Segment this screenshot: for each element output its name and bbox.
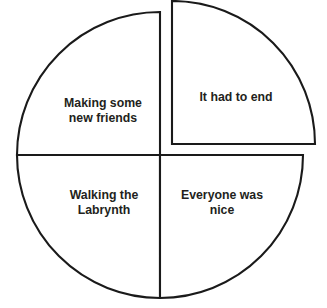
pie-label-walking-the-labrynth-line1: Walking the (70, 188, 139, 202)
pie-slice-everyone-was-nice[interactable] (160, 155, 303, 298)
pie-chart-canvas: Making some new friends It had to end Wa… (0, 0, 327, 308)
pie-label-walking-the-labrynth-line2: Labrynth (78, 203, 131, 217)
pie-label-everyone-was-nice-line2: nice (210, 203, 235, 217)
pie-label-making-some-new-friends-line2: new friends (69, 111, 137, 125)
pie-label-it-had-to-end-line1: It had to end (199, 90, 272, 104)
pie-slice-it-had-to-end[interactable] (172, 1, 315, 144)
pie-chart-figure: Making some new friends It had to end Wa… (0, 0, 327, 308)
pie-slice-making-some-new-friends[interactable] (17, 12, 160, 155)
pie-slice-walking-the-labrynth[interactable] (17, 155, 160, 298)
pie-label-making-some-new-friends-line1: Making some (64, 96, 142, 110)
pie-label-everyone-was-nice-line1: Everyone was (181, 188, 263, 202)
